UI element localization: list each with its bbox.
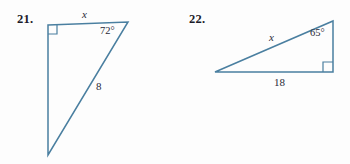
problem-number-22: 22. (189, 12, 205, 27)
side-label-18-22: 18 (274, 76, 285, 88)
angle-label-72-21: 72° (100, 25, 115, 36)
triangle-diagrams (0, 0, 350, 164)
triangle-21-outline (48, 22, 128, 155)
side-label-x-21: x (82, 8, 87, 20)
figure-canvas: 21. x 72° 8 22. x 65° 18 (0, 0, 350, 164)
triangle-21 (48, 22, 128, 155)
angle-label-65-22: 65° (310, 27, 325, 38)
side-label-x-22: x (269, 31, 274, 43)
right-angle-marker-21 (48, 25, 57, 34)
right-angle-marker-22 (323, 62, 333, 72)
problem-number-21: 21. (17, 12, 33, 27)
side-label-8-21: 8 (96, 80, 102, 92)
